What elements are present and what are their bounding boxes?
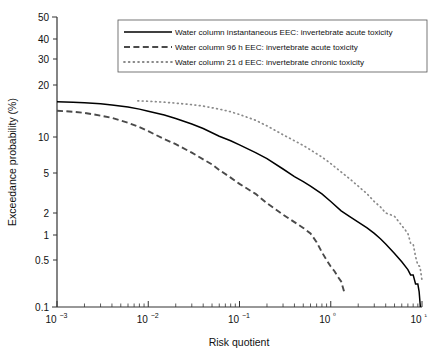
y-tick-label: 50	[38, 12, 50, 23]
y-tick-label: 1	[43, 230, 49, 241]
y-tick-label: 40	[38, 34, 50, 45]
legend-label: Water column 96 h EEC: invertebrate acut…	[175, 43, 359, 52]
chart-legend: Water column instantaneous EEC: inverteb…	[118, 20, 427, 72]
x-tick-label-exponent: −2	[151, 312, 159, 319]
x-tick-label-exponent: −3	[60, 312, 68, 319]
y-tick-label: 10	[38, 132, 50, 143]
chart-figure: 50403020105210.50.1 10−310−210−110⁰10¹ R…	[0, 0, 446, 364]
y-tick-label: 2	[43, 208, 49, 219]
x-axis-title: Risk quotient	[209, 336, 270, 348]
y-tick-label: 30	[38, 54, 50, 65]
x-tick-label-base: 10	[137, 314, 149, 325]
x-tick-label-base: 10	[410, 314, 422, 325]
y-tick-label: 5	[43, 168, 49, 179]
y-axis-title: Exceedance probability (%)	[6, 98, 18, 226]
x-tick-label-base: 10	[228, 314, 240, 325]
legend-label: Water column instantaneous EEC: inverteb…	[175, 28, 393, 37]
x-tick-label-exponent: ⁰	[333, 312, 336, 319]
legend-label: Water column 21 d EEC: invertebrate chro…	[175, 58, 365, 67]
y-tick-label: 0.5	[35, 255, 49, 266]
x-tick-label-base: 10	[319, 314, 331, 325]
exceedance-probability-chart: 50403020105210.50.1 10−310−210−110⁰10¹ R…	[0, 0, 446, 364]
y-tick-label: 0.1	[35, 302, 49, 313]
x-tick-label-exponent: −1	[242, 312, 250, 319]
x-tick-label-base: 10	[45, 314, 57, 325]
y-tick-label: 20	[38, 80, 50, 91]
